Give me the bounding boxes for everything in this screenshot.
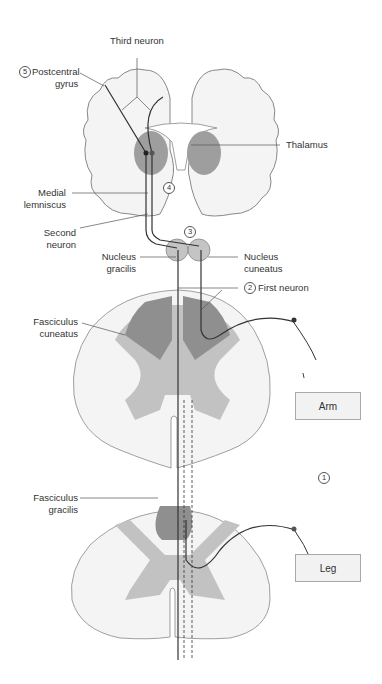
brain-section: [83, 58, 280, 216]
label-medial-lemniscus-1: Medial: [20, 187, 66, 199]
label-second-neuron-2: neuron: [30, 239, 76, 251]
leg-box: Leg: [295, 554, 361, 582]
label-nucleus-gracilis-1: Nucleus: [90, 251, 136, 263]
label-fasciculus-gracilis-1: Fasciculus: [28, 492, 78, 504]
cervical-cord: [73, 290, 270, 468]
number-4: 4: [163, 182, 175, 194]
lumbar-cord: [71, 506, 270, 639]
number-2: 2: [244, 282, 256, 294]
label-thalamus: Thalamus: [286, 139, 328, 151]
label-postcentral-gyrus-1: Postcentral: [32, 66, 80, 78]
label-nucleus-cuneatus-2: cuneatus: [244, 263, 283, 275]
label-medial-lemniscus-2: lemniscus: [20, 199, 66, 211]
label-first-neuron: First neuron: [258, 282, 309, 294]
label-fasciculus-cuneatus-2: cuneatus: [28, 328, 78, 340]
label-second-neuron-1: Second: [30, 227, 76, 239]
number-1: 1: [318, 472, 330, 484]
label-nucleus-cuneatus-1: Nucleus: [244, 251, 278, 263]
label-nucleus-gracilis-2: gracilis: [90, 263, 136, 275]
number-3: 3: [184, 226, 196, 238]
arm-box: Arm: [295, 392, 361, 420]
label-third-neuron: Third neuron: [110, 35, 164, 47]
label-fasciculus-gracilis-2: gracilis: [28, 504, 78, 516]
label-postcentral-gyrus-2: gyrus: [55, 78, 78, 90]
label-fasciculus-cuneatus-1: Fasciculus: [28, 316, 78, 328]
number-5: 5: [19, 66, 31, 78]
